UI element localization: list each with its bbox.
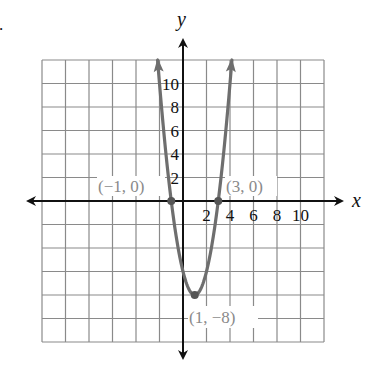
x-tick-label: 4 [226, 206, 235, 225]
y-tick-label: 8 [171, 98, 180, 117]
x-axis-label: x [351, 189, 361, 211]
vertex-label: (1, −8) [189, 308, 235, 327]
vertex-point [191, 291, 199, 299]
parabola-graph: . y x 246810 246810 (−1, 0) (3, 0) (1, −… [0, 0, 372, 370]
y-tick-label: 4 [171, 145, 180, 164]
y-tick-label: 6 [171, 122, 180, 141]
y-axis-label: y [175, 8, 186, 31]
x-tick-label: 8 [273, 206, 282, 225]
x-tick-label: 6 [249, 206, 258, 225]
y-tick-label: 2 [171, 169, 180, 188]
x-tick-label: 10 [292, 206, 309, 225]
y-tick-label: 10 [162, 75, 179, 94]
root-left-label: (−1, 0) [98, 177, 144, 196]
root-left-point [167, 197, 175, 205]
x-tick-label: 2 [202, 206, 211, 225]
root-right-point [214, 197, 222, 205]
problem-marker: . [0, 15, 3, 34]
root-right-label: (3, 0) [226, 177, 263, 196]
